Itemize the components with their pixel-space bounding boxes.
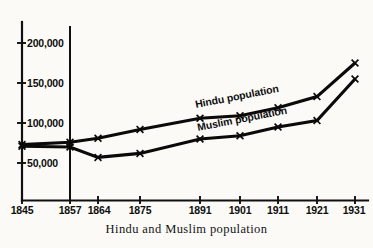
series-annotations: Hindu population Muslim population [194, 82, 288, 133]
axes-group [22, 22, 368, 201]
x-tick-labels: 1845 1857 1864 1875 1891 1901 1911 1921 … [11, 204, 366, 216]
figure-container: 200,000 150,000 100,000 50,000 1845 1857… [0, 0, 373, 248]
figure-caption: Hindu and Muslim population [0, 222, 373, 237]
x-tick-label-1931: 1931 [343, 204, 366, 216]
data-point-marker [352, 76, 359, 83]
x-tick-label-1901: 1901 [229, 204, 252, 216]
y-tick-label-200000: 200,000 [27, 37, 64, 49]
x-tick-label-1875: 1875 [129, 204, 152, 216]
y-tick-label-50000: 50,000 [27, 157, 58, 169]
series-label-hindu: Hindu population [194, 82, 279, 110]
series-line-hindu [22, 63, 355, 145]
y-tick-labels: 200,000 150,000 100,000 50,000 [27, 37, 64, 169]
y-tick-label-150000: 150,000 [27, 77, 64, 89]
x-tick-label-1845: 1845 [11, 204, 34, 216]
x-tick-label-1891: 1891 [189, 204, 212, 216]
line-chart: 200,000 150,000 100,000 50,000 1845 1857… [0, 0, 373, 248]
y-tick-label-100000: 100,000 [27, 117, 64, 129]
x-tick-label-1864: 1864 [88, 204, 111, 216]
x-tick-label-1857: 1857 [59, 204, 82, 216]
x-tick-label-1921: 1921 [306, 204, 329, 216]
data-point-marker [352, 60, 359, 67]
x-tick-label-1911: 1911 [267, 204, 289, 216]
